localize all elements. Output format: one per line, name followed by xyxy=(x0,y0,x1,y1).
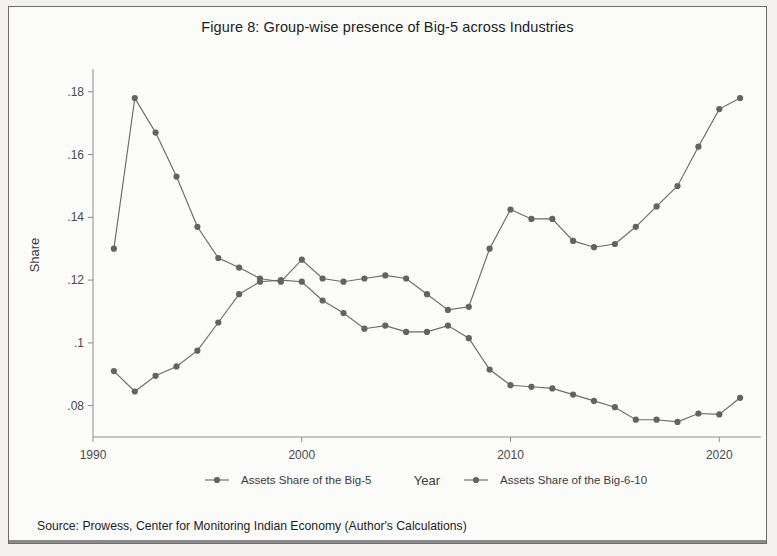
data-point xyxy=(382,272,388,278)
data-point xyxy=(278,277,284,283)
data-point xyxy=(466,335,472,341)
data-point xyxy=(361,326,367,332)
legend-label: Assets Share of the Big-6-10 xyxy=(500,474,647,486)
data-point xyxy=(674,419,680,425)
data-point xyxy=(654,203,660,209)
data-point xyxy=(236,291,242,297)
data-point xyxy=(173,363,179,369)
x-tick-label: 2020 xyxy=(706,448,733,462)
line-chart: .08.1.12.14.16.18 1990200020102020 Asset… xyxy=(9,55,768,495)
figure-title: Figure 8: Group-wise presence of Big-5 a… xyxy=(9,19,766,35)
y-tick-label: .16 xyxy=(67,148,84,162)
y-tick-label: .12 xyxy=(67,273,84,287)
data-point xyxy=(633,417,639,423)
data-point xyxy=(528,384,534,390)
data-point xyxy=(320,297,326,303)
data-point xyxy=(215,255,221,261)
data-point xyxy=(737,95,743,101)
x-axis: 1990200020102020 xyxy=(80,437,761,462)
data-point xyxy=(215,319,221,325)
data-point xyxy=(466,304,472,310)
data-point xyxy=(403,329,409,335)
x-tick-label: 1990 xyxy=(80,448,107,462)
data-point xyxy=(507,206,513,212)
chart-plot-area: .08.1.12.14.16.18 1990200020102020 Asset… xyxy=(9,55,768,495)
legend-item-1[interactable]: Assets Share of the Big-5 xyxy=(205,474,371,486)
y-tick-label: .08 xyxy=(67,399,84,413)
data-point xyxy=(716,411,722,417)
data-point xyxy=(320,275,326,281)
data-point xyxy=(299,279,305,285)
data-point xyxy=(487,366,493,372)
data-point xyxy=(424,329,430,335)
data-point xyxy=(403,275,409,281)
data-point xyxy=(445,323,451,329)
bottom-rule xyxy=(9,540,766,543)
data-point xyxy=(424,291,430,297)
y-tick-label: .14 xyxy=(67,210,84,224)
data-point xyxy=(549,385,555,391)
data-point xyxy=(445,307,451,313)
series-2 xyxy=(111,277,743,425)
data-point xyxy=(570,238,576,244)
data-point xyxy=(299,257,305,263)
data-point xyxy=(674,183,680,189)
data-point xyxy=(570,392,576,398)
data-point xyxy=(487,246,493,252)
data-point xyxy=(695,410,701,416)
data-point xyxy=(507,382,513,388)
data-point xyxy=(111,246,117,252)
data-point xyxy=(737,395,743,401)
data-point xyxy=(340,310,346,316)
data-point xyxy=(654,417,660,423)
x-tick-label: 2000 xyxy=(288,448,315,462)
x-axis-title: Year xyxy=(414,473,441,488)
data-point xyxy=(194,224,200,230)
data-point xyxy=(528,216,534,222)
data-point xyxy=(591,398,597,404)
series-1 xyxy=(111,95,743,313)
chart-series-group xyxy=(111,95,743,425)
data-point xyxy=(132,388,138,394)
y-axis: .08.1.12.14.16.18 xyxy=(67,69,93,437)
figure-frame: Figure 8: Group-wise presence of Big-5 a… xyxy=(8,6,767,544)
legend-label: Assets Share of the Big-5 xyxy=(241,474,371,486)
data-point xyxy=(173,174,179,180)
y-tick-label: .18 xyxy=(67,85,84,99)
data-point xyxy=(716,106,722,112)
data-point xyxy=(612,241,618,247)
data-point xyxy=(194,348,200,354)
data-point xyxy=(153,130,159,136)
data-point xyxy=(340,279,346,285)
y-tick-label: .1 xyxy=(74,336,84,350)
data-point xyxy=(111,368,117,374)
legend-item-2[interactable]: Assets Share of the Big-6-10 xyxy=(464,474,647,486)
source-note: Source: Prowess, Center for Monitoring I… xyxy=(37,519,467,533)
data-point xyxy=(549,216,555,222)
data-point xyxy=(633,224,639,230)
data-point xyxy=(612,404,618,410)
data-point xyxy=(695,144,701,150)
data-point xyxy=(257,279,263,285)
data-point xyxy=(382,323,388,329)
data-point xyxy=(361,275,367,281)
x-tick-label: 2010 xyxy=(497,448,524,462)
data-point xyxy=(132,95,138,101)
data-point xyxy=(591,244,597,250)
data-point xyxy=(153,373,159,379)
data-point xyxy=(236,265,242,271)
y-axis-title: Share xyxy=(27,238,42,273)
